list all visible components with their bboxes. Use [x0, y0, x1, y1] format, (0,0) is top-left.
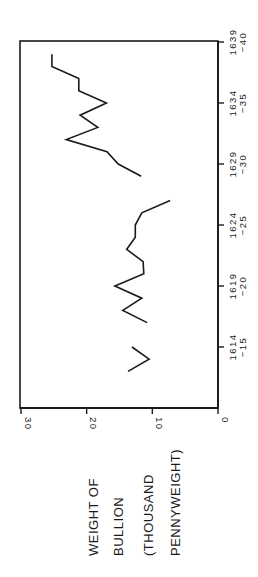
series-line-segment-1612-1614: [128, 347, 149, 371]
value-tick-label: 30: [23, 417, 34, 431]
ylabel-line-2: BULLION: [111, 497, 126, 556]
time-axis-ticks: 1614−151619−201624−251629−301634−351639−…: [218, 28, 248, 360]
time-tick-label-suffix: −35: [237, 93, 248, 114]
ylabel-line-1: WEIGHT OF: [86, 478, 101, 556]
series-line-segment-1616-1626: [115, 201, 170, 323]
value-tick-label: 20: [88, 417, 99, 431]
time-tick-label-suffix: −20: [237, 276, 248, 297]
time-tick-label-suffix: −15: [237, 337, 248, 358]
plot-frame: [20, 41, 218, 408]
time-tick-label-suffix: −30: [237, 154, 248, 175]
time-tick-label-suffix: −25: [237, 215, 248, 236]
bullion-weight-chart: 0102030 1614−151619−201624−251629−301634…: [0, 0, 258, 577]
value-tick-label: 0: [220, 417, 231, 424]
value-axis-ticks: 0102030: [21, 408, 231, 431]
value-axis-title: WEIGHT OF BULLION (THOUSAND PENNYWEIGHT): [86, 449, 183, 556]
data-series: [52, 54, 170, 371]
time-tick-label-suffix: −40: [237, 32, 248, 53]
value-tick-label: 10: [154, 417, 165, 431]
ylabel-line-3: (THOUSAND: [141, 474, 156, 556]
series-line-segment-1628-1638: [52, 54, 141, 176]
ylabel-line-4: PENNYWEIGHT): [168, 449, 183, 556]
